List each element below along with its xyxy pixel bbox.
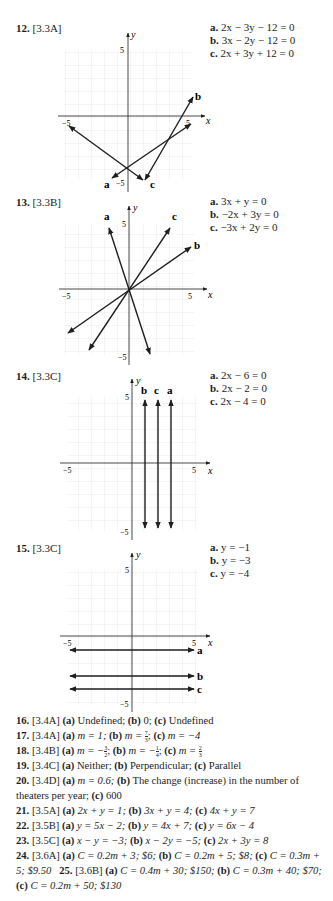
svg-text:5: 5 [192, 639, 196, 648]
answer-24-25: 24. [3.6A] (a) C = 0.2m + 3; $6; (b) C =… [16, 848, 326, 893]
answer-18: 18. [3.4B] (a) m = −32; (b) m = −14; (c)… [16, 743, 326, 758]
answer-22: 22. [3.5B] (a) y = 5x − 2; (b) y = 4x + … [16, 818, 326, 833]
answer-20: 20. [3.4D] (a) m = 0.6; (b) The change (… [16, 773, 326, 803]
svg-text:a: a [197, 644, 203, 656]
svg-text:c: c [197, 683, 202, 695]
answer-21: 21. [3.5A] (a) 2x + y = 1; (b) 3x + y = … [16, 803, 326, 818]
answer-23: 23. [3.5C] (a) x − y = −3; (b) x − 2y = … [16, 833, 326, 848]
answer-19: 19. [3.4C] (a) Neither; (b) Perpendicula… [16, 758, 326, 773]
answer-16: 16. [3.4A] (a) Undefined; (b) 0; (c) Und… [16, 713, 326, 728]
svg-text:y: y [135, 549, 141, 560]
svg-text:−5: −5 [120, 700, 129, 709]
svg-text:b: b [197, 670, 203, 682]
svg-text:x: x [207, 637, 213, 648]
answers-list: 16. [3.4A] (a) Undefined; (b) 0; (c) Und… [16, 713, 326, 893]
answer-17: 17. [3.4A] (a) m = 1; (b) m = 73; (c) m … [16, 728, 326, 743]
graph-15: y x 5 −5 5 −5 a b c [0, 0, 333, 720]
svg-text:5: 5 [125, 566, 129, 575]
svg-text:−5: −5 [63, 639, 72, 648]
